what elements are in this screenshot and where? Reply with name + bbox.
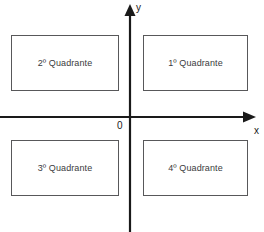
y-axis-label: y: [136, 3, 141, 13]
y-axis-arrowhead: [125, 4, 136, 16]
quadrant-box-4: 4º Quadrante: [143, 140, 248, 196]
quadrant-box-3: 3º Quadrante: [11, 140, 119, 196]
quadrant-box-1: 1º Quadrante: [143, 35, 248, 91]
origin-label: 0: [117, 121, 123, 131]
x-axis-label: x: [254, 126, 259, 136]
quadrant-label-3: 3º Quadrante: [38, 164, 93, 173]
quadrant-label-4: 4º Quadrante: [168, 164, 223, 173]
quadrant-label-1: 1º Quadrante: [168, 59, 223, 68]
quadrant-box-2: 2º Quadrante: [11, 35, 119, 91]
quadrant-label-2: 2º Quadrante: [38, 59, 93, 68]
x-axis-arrowhead: [243, 112, 256, 123]
cartesian-plane-diagram: y x 0 2º Quadrante 1º Quadrante 3º Quadr…: [0, 0, 264, 232]
